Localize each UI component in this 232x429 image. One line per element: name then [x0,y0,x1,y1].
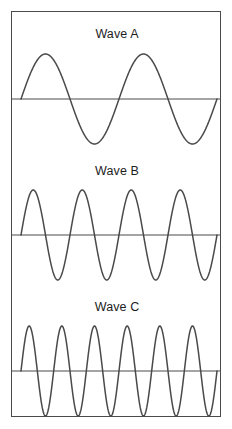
wave-panel-b: Wave B [12,150,222,288]
wave-comparison-figure: Wave A Wave B Wave C [0,0,232,429]
wave-plot-a [12,38,222,152]
wave-plot-c [12,310,222,424]
wave-plot-b [12,174,222,288]
wave-panel-c: Wave C [12,288,222,418]
figure-border-box: Wave A Wave B Wave C [11,11,221,417]
wave-panel-a: Wave A [12,12,222,152]
